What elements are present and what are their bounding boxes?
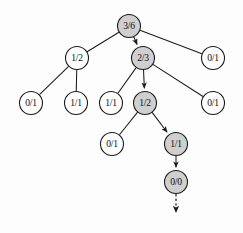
tree-edge (87, 32, 119, 52)
node-label: 2/3 (137, 52, 149, 63)
tree-node[interactable]: 1/1 (165, 133, 188, 156)
tree-node[interactable]: 2/3 (132, 47, 155, 70)
tree-edge (153, 64, 203, 96)
tree-edge (40, 66, 69, 94)
tree-node[interactable]: 3/6 (118, 15, 141, 38)
node-label: 3/6 (123, 20, 135, 31)
tree-node[interactable]: 1/2 (66, 47, 89, 70)
tree-node[interactable]: 0/1 (202, 92, 225, 115)
tree-node[interactable]: 0/1 (20, 92, 43, 115)
node-label: 1/1 (105, 97, 117, 108)
tree-edge (118, 68, 136, 94)
tree-edge-selected (152, 112, 167, 132)
search-tree-figure: 3/61/22/30/10/11/11/11/20/10/11/10/0 (0, 0, 243, 233)
tree-node[interactable]: 1/2 (134, 92, 157, 115)
tree-node[interactable]: 0/1 (202, 47, 225, 70)
node-label: 1/2 (139, 97, 151, 108)
tree-edge-selected (144, 70, 145, 89)
node-label: 1/1 (170, 138, 182, 149)
node-label: 0/1 (25, 97, 37, 108)
node-label: 0/0 (170, 176, 182, 187)
tree-node[interactable]: 1/1 (100, 92, 123, 115)
node-layer: 3/61/22/30/10/11/11/11/20/10/11/10/0 (20, 15, 225, 194)
node-label: 0/1 (106, 138, 118, 149)
tree-edge-selected (134, 37, 137, 45)
tree-edge (119, 112, 137, 135)
tree-node[interactable]: 0/0 (165, 171, 188, 194)
node-label: 0/1 (207, 52, 219, 63)
tree-canvas: 3/61/22/30/10/11/11/11/20/10/11/10/0 (0, 0, 243, 233)
tree-node[interactable]: 0/1 (101, 133, 124, 156)
node-label: 1/2 (71, 52, 83, 63)
tree-node[interactable]: 1/1 (65, 92, 88, 115)
node-label: 0/1 (207, 97, 219, 108)
node-label: 1/1 (70, 97, 82, 108)
